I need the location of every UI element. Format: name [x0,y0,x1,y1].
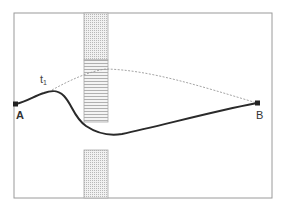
point-b-label: B [256,110,263,121]
t1-label: t1 [40,74,47,86]
diagram-frame [14,13,272,198]
upper-barrier-top [84,13,108,60]
diagram-canvas [0,0,286,208]
point-a-label: A [16,110,24,121]
upper-barrier [84,13,108,122]
t1-label-sub: 1 [43,79,47,86]
lower-barrier [84,150,108,198]
point-b-marker [255,101,260,106]
point-a-marker [13,102,18,107]
